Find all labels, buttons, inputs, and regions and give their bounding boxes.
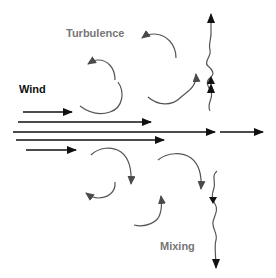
wavy-down-mid-arrowhead (209, 197, 217, 204)
eddy-arrow-upper-1 (88, 60, 115, 80)
turbulence-mixing-diagram (0, 0, 276, 278)
lower-eddies (86, 148, 201, 226)
wavy-arrow-up (206, 14, 212, 111)
eddy-arrow-lower-2 (86, 182, 115, 198)
wavy-arrow-down (212, 171, 217, 268)
vertical-wavy-arrows (206, 14, 217, 268)
wind-label: Wind (19, 84, 46, 95)
mixing-label: Mixing (160, 241, 195, 252)
eddy-arrow-lower-3 (158, 154, 201, 189)
eddy-arrow-upper-2 (80, 82, 122, 114)
eddy-arrow-upper-3 (142, 34, 176, 58)
turbulence-label: Turbulence (66, 28, 124, 39)
eddy-arrow-lower-4 (134, 196, 162, 226)
eddy-arrow-lower-1 (91, 148, 131, 184)
wind-arrows (13, 112, 263, 150)
upper-eddies (80, 34, 196, 114)
eddy-arrow-upper-4 (148, 74, 196, 104)
